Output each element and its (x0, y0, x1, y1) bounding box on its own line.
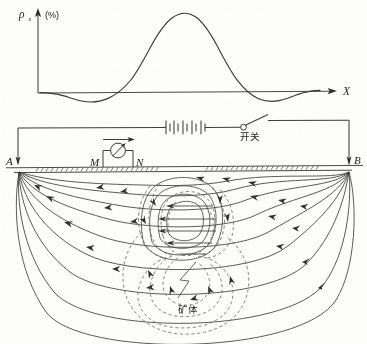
x-axis (38, 88, 337, 94)
electrode-a (16, 155, 21, 166)
y-axis-unit: (%) (45, 10, 59, 20)
ore-body-label: 矿体 (178, 304, 198, 315)
x-axis-label: X (342, 85, 351, 97)
current-flow-line (19, 172, 349, 196)
electrode-a-label: A (5, 155, 13, 167)
survey-circuit: 开关 A B M N (5, 115, 361, 168)
ground-surface (6, 165, 363, 172)
equipotential-dashed-line (163, 258, 210, 305)
current-flow-lines (16, 172, 354, 344)
figure-canvas: ρ s (%) X (0, 0, 367, 344)
current-flow-line (19, 172, 349, 186)
electrode-b-label: B (354, 154, 361, 166)
current-direction-arrows (34, 177, 325, 301)
galvanometer-icon (111, 143, 126, 158)
electrode-m-label: M (89, 156, 100, 168)
resistivity-survey-figure: ρ s (%) X (0, 0, 367, 344)
switch-label: 开关 (240, 131, 260, 142)
lightning-bolt-icon (178, 262, 196, 298)
current-flow-line (16, 172, 354, 344)
y-axis-symbol: ρ (18, 8, 25, 21)
measuring-dipole-mn (103, 137, 135, 167)
electrode-n-label: N (135, 156, 144, 168)
resistivity-curve (40, 13, 320, 102)
y-axis-subscript: s (29, 15, 32, 23)
y-axis (35, 8, 41, 93)
resistivity-profile-chart: ρ s (%) X (18, 8, 351, 102)
battery-bank-icon (163, 121, 242, 135)
knife-switch-icon[interactable] (241, 115, 349, 130)
wire-top-left (18, 127, 163, 128)
electrode-b (347, 155, 352, 166)
